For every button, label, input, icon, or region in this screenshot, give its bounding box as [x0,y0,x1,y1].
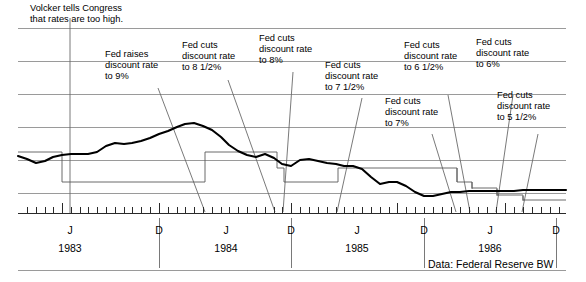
year-label-1986: 1986 [478,242,502,254]
annotation-cut-6half-line2: discount rate [404,51,457,61]
annotation-raise-9-line1: Fed raises [105,49,149,59]
annotation-cut-7half-line3: to 7 1/2% [325,82,364,92]
annotation-cut-8-line1: Fed cuts [259,33,295,43]
year-label-1985: 1985 [345,242,369,254]
annotation-cut-5half-line2: discount rate [497,101,550,111]
year-label-1983: 1983 [58,242,82,254]
chart-figure: J D J D J D J D 1983 1984 1985 1986 Data… [0,0,586,282]
annotation-cut-8-line3: to 8% [259,55,283,65]
annotation-volcker-line1: Volcker tells Congress [30,3,122,13]
annotation-cut-6-line1: Fed cuts [476,37,512,47]
annotation-cut-5half-line3: to 5 1/2% [497,112,536,122]
annotation-cut-8half-line2: discount rate [182,51,235,61]
axis-label-d-1983: D [155,224,163,236]
annotation-cut-6half-line3: to 6 1/2% [404,62,443,72]
annotation-raise-9-line2: discount rate [105,60,158,70]
annotation-cut-8half-line3: to 8 1/2% [182,62,221,72]
annotation-cut-7-line1: Fed cuts [385,96,421,106]
axis-label-j-1985: J [354,224,359,236]
annotation-cut-6-line3: to 6% [476,59,500,69]
axis-label-j-1983: J [67,224,72,236]
axis-label-j-1986: J [487,224,492,236]
annotation-cut-7-line3: to 7% [385,118,409,128]
annotation-cut-8half-line1: Fed cuts [182,40,218,50]
annotation-cut-8-line2: discount rate [259,44,312,54]
annotation-raise-9-line3: to 9% [105,71,129,81]
source-note: Data: Federal Reserve BW [428,258,554,270]
annotation-cut-7half-line2: discount rate [325,71,378,81]
annotation-cut-6half-line1: Fed cuts [404,40,440,50]
axis-label-d-1985: D [420,224,428,236]
annotation-volcker: Volcker tells Congress that rates are to… [30,3,123,24]
axis-label-j-1984: J [223,224,228,236]
annotation-volcker-line2: that rates are too high. [30,14,123,24]
annotation-cut-5half-line1: Fed cuts [497,90,533,100]
axis-label-d-1984: D [287,224,295,236]
year-label-1984: 1984 [214,242,238,254]
annotation-cut-7half-line1: Fed cuts [325,60,361,70]
annotation-cut-7-line2: discount rate [385,107,438,117]
axis-label-d-1986: D [552,224,560,236]
annotation-cut-6-line2: discount rate [476,48,529,58]
